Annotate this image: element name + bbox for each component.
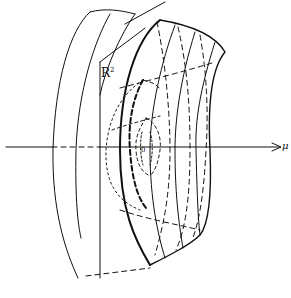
- plane-label: R2: [101, 66, 115, 80]
- plane-label-sup: 2: [110, 66, 114, 74]
- axis-label: μ: [282, 140, 289, 151]
- origin-label: 0: [141, 146, 145, 154]
- outer-shells: [53, 2, 165, 278]
- diagram-canvas: [0, 0, 291, 298]
- plane-label-text: R: [101, 66, 110, 80]
